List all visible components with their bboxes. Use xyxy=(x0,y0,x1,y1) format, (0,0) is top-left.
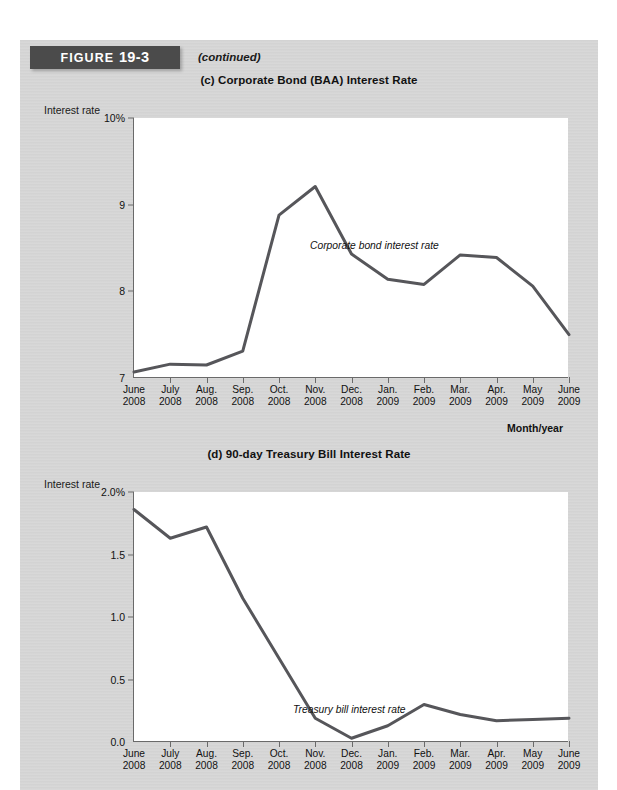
x-axis-tick-label: Oct.2008 xyxy=(268,748,291,771)
x-axis-tick-label: July2008 xyxy=(159,384,182,407)
x-axis-tick-label: Feb.2009 xyxy=(413,748,436,771)
x-axis-year: 2008 xyxy=(195,760,218,772)
x-axis-year: 2008 xyxy=(123,760,146,772)
x-axis-month: Mar. xyxy=(449,384,472,396)
chart-d-plot-area: 2.0%1.51.00.50.0June2008July2008Aug.2008… xyxy=(133,492,568,742)
x-axis-year: 2009 xyxy=(449,396,472,408)
x-axis-tick-label: Sep.2008 xyxy=(231,384,254,407)
x-axis-year: 2009 xyxy=(413,396,436,408)
x-axis-month: Nov. xyxy=(304,384,327,396)
chart-c-plot-area: 10%987June2008July2008Aug.2008Sep.2008Oc… xyxy=(133,118,568,378)
x-axis-tick-label: Feb.2009 xyxy=(413,384,436,407)
x-axis-year: 2008 xyxy=(159,396,182,408)
x-axis-month: Apr. xyxy=(485,748,508,760)
x-axis-tick-label: Nov.2008 xyxy=(304,748,327,771)
x-axis-month: Dec. xyxy=(340,748,363,760)
chart-d-title: (d) 90-day Treasury Bill Interest Rate xyxy=(20,448,598,460)
x-axis-month: June xyxy=(123,748,146,760)
y-axis-tick-label: 0.0 xyxy=(110,736,134,748)
x-axis-year: 2009 xyxy=(413,760,436,772)
x-axis-month: Mar. xyxy=(449,748,472,760)
x-axis-month: May xyxy=(521,384,544,396)
x-axis-tick-label: Dec.2008 xyxy=(340,748,363,771)
x-axis-tick-label: Apr.2009 xyxy=(485,748,508,771)
x-axis-month: Feb. xyxy=(413,384,436,396)
x-axis-month: Apr. xyxy=(485,384,508,396)
x-axis-year: 2008 xyxy=(231,760,254,772)
x-axis-month: Sep. xyxy=(231,748,254,760)
x-axis-tick-label: Jan.2009 xyxy=(376,748,399,771)
x-axis-month: June xyxy=(123,384,146,396)
x-axis-tick-mark xyxy=(569,377,570,383)
x-axis-tick-label: Oct.2008 xyxy=(268,384,291,407)
x-axis-year: 2008 xyxy=(340,760,363,772)
x-axis-tick-label: Apr.2009 xyxy=(485,384,508,407)
x-axis-month: Dec. xyxy=(340,384,363,396)
x-axis-year: 2009 xyxy=(558,760,581,772)
x-axis-year: 2008 xyxy=(123,396,146,408)
x-axis-tick-label: Mar.2009 xyxy=(449,748,472,771)
x-axis-year: 2008 xyxy=(159,760,182,772)
x-axis-year: 2008 xyxy=(231,396,254,408)
x-axis-year: 2008 xyxy=(304,760,327,772)
x-axis-year: 2009 xyxy=(376,760,399,772)
x-axis-tick-label: June2008 xyxy=(123,748,146,771)
x-axis-month: Nov. xyxy=(304,748,327,760)
chart-c-annotation: Corporate bond interest rate xyxy=(310,240,439,251)
x-axis-month: May xyxy=(521,748,544,760)
figure-continued-label: (continued) xyxy=(198,46,261,69)
x-axis-year: 2009 xyxy=(485,396,508,408)
x-axis-tick-label: Sep.2008 xyxy=(231,748,254,771)
x-axis-tick-label: Aug.2008 xyxy=(195,384,218,407)
x-axis-month: June xyxy=(558,384,581,396)
chart-c-xlabel: Month/year xyxy=(507,422,563,434)
x-axis-tick-label: June2008 xyxy=(123,384,146,407)
x-axis-tick-label: Nov.2008 xyxy=(304,384,327,407)
chart-c-title: (c) Corporate Bond (BAA) Interest Rate xyxy=(20,74,598,86)
y-axis-tick-label: 7 xyxy=(119,372,134,384)
chart-treasury-bill: (d) 90-day Treasury Bill Interest Rate I… xyxy=(20,448,598,788)
x-axis-tick-label: June2009 xyxy=(558,384,581,407)
x-axis-month: July xyxy=(159,748,182,760)
chart-d-ylabel: Interest rate xyxy=(44,478,100,490)
x-axis-year: 2008 xyxy=(195,396,218,408)
x-axis-tick-label: July2008 xyxy=(159,748,182,771)
x-axis-month: Sep. xyxy=(231,384,254,396)
chart-corporate-bond: (c) Corporate Bond (BAA) Interest Rate I… xyxy=(20,74,598,434)
figure-number-banner: FIGURE 19-3 xyxy=(30,46,180,69)
chart-d-annotation: Treasury bill interest rate xyxy=(293,704,406,715)
figure-label-number: 19-3 xyxy=(119,49,150,65)
x-axis-year: 2009 xyxy=(376,396,399,408)
x-axis-tick-label: Mar.2009 xyxy=(449,384,472,407)
x-axis-month: Feb. xyxy=(413,748,436,760)
x-axis-month: June xyxy=(558,748,581,760)
x-axis-month: Oct. xyxy=(268,384,291,396)
x-axis-year: 2008 xyxy=(268,396,291,408)
figure-panel: FIGURE 19-3 (continued) (c) Corporate Bo… xyxy=(20,40,598,790)
x-axis-year: 2009 xyxy=(521,760,544,772)
x-axis-tick-label: May2009 xyxy=(521,384,544,407)
x-axis-tick-label: Jan.2009 xyxy=(376,384,399,407)
figure-label-prefix: FIGURE xyxy=(60,51,118,65)
x-axis-tick-label: June2009 xyxy=(558,748,581,771)
x-axis-year: 2008 xyxy=(304,396,327,408)
x-axis-year: 2009 xyxy=(558,396,581,408)
x-axis-month: Aug. xyxy=(195,748,218,760)
x-axis-year: 2009 xyxy=(521,396,544,408)
chart-c-ylabel: Interest rate xyxy=(44,104,100,116)
x-axis-tick-label: Aug.2008 xyxy=(195,748,218,771)
x-axis-tick-label: Dec.2008 xyxy=(340,384,363,407)
x-axis-year: 2008 xyxy=(340,396,363,408)
x-axis-tick-mark xyxy=(569,741,570,747)
figure-number-label: FIGURE 19-3 xyxy=(30,46,180,70)
x-axis-year: 2008 xyxy=(268,760,291,772)
x-axis-month: July xyxy=(159,384,182,396)
x-axis-month: Jan. xyxy=(376,384,399,396)
x-axis-year: 2009 xyxy=(449,760,472,772)
x-axis-month: Jan. xyxy=(376,748,399,760)
x-axis-year: 2009 xyxy=(485,760,508,772)
x-axis-month: Aug. xyxy=(195,384,218,396)
x-axis-month: Oct. xyxy=(268,748,291,760)
x-axis-tick-label: May2009 xyxy=(521,748,544,771)
series-line xyxy=(134,186,569,371)
